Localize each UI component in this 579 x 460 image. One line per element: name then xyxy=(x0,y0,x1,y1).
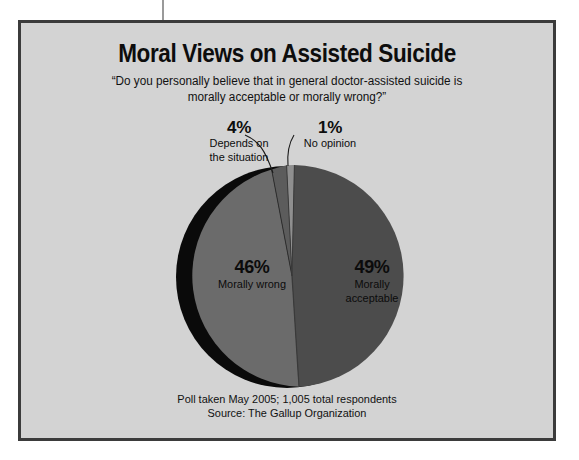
slice-label-morally-wrong-percent: 46% xyxy=(197,257,307,278)
scan-artifact-line xyxy=(162,0,164,20)
callout-no-opinion-label: No opinion xyxy=(291,137,369,151)
slice-label-morally-wrong-text: Morally wrong xyxy=(200,278,305,292)
callout-depends-label-line1: Depends on xyxy=(195,137,282,151)
slice-label-morally-acceptable-percent: 49% xyxy=(327,257,417,278)
callout-depends-on-situation: 4% Depends on the situation xyxy=(193,118,285,164)
callout-no-opinion-percent: 1% xyxy=(289,118,371,137)
callout-depends-label-line2: the situation xyxy=(195,151,282,165)
slice-label-morally-acceptable-text-line2: acceptable xyxy=(329,292,415,306)
pie-chart xyxy=(21,23,553,438)
slice-label-morally-acceptable-text-line1: Morally xyxy=(329,278,415,292)
slice-label-morally-acceptable: 49% Morally acceptable xyxy=(327,257,417,305)
chart-footer: Poll taken May 2005; 1,005 total respond… xyxy=(34,392,539,420)
slice-label-morally-wrong: 46% Morally wrong xyxy=(197,257,307,292)
callout-depends-percent: 4% xyxy=(193,118,285,137)
footer-poll-info: Poll taken May 2005; 1,005 total respond… xyxy=(34,392,539,406)
callout-no-opinion: 1% No opinion xyxy=(289,118,371,151)
footer-source: Source: The Gallup Organization xyxy=(34,406,539,420)
chart-frame: Moral Views on Assisted Suicide “Do you … xyxy=(18,20,556,441)
pie-chart-svg xyxy=(21,23,553,438)
